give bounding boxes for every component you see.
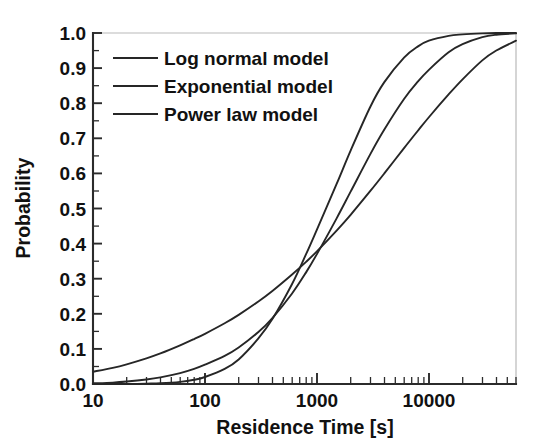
legend-label-power-law-model: Power law model bbox=[164, 104, 318, 125]
legend-label-exponential-model: Exponential model bbox=[164, 76, 333, 97]
x-tick-label-100: 100 bbox=[189, 390, 221, 411]
x-major-ticks bbox=[93, 373, 429, 384]
chart-canvas: 1.0 0.9 0.8 0.7 0.6 0.5 0.4 0.3 0.2 0.1 … bbox=[0, 0, 541, 447]
x-tick-label-1000: 1000 bbox=[296, 390, 338, 411]
x-tick-label-10: 10 bbox=[82, 390, 103, 411]
x-tick-label-10000: 10000 bbox=[403, 390, 456, 411]
y-tick-labels: 1.0 0.9 0.8 0.7 0.6 0.5 0.4 0.3 0.2 0.1 … bbox=[60, 23, 87, 395]
x-axis-title: Residence Time [s] bbox=[216, 416, 393, 438]
y-tick-label-0-3: 0.3 bbox=[60, 269, 86, 290]
x-tick-labels: 10 100 1000 10000 bbox=[82, 390, 455, 411]
y-tick-label-0-4: 0.4 bbox=[60, 234, 87, 255]
y-tick-label-0-5: 0.5 bbox=[60, 199, 87, 220]
chart-legend: Log normal model Exponential model Power… bbox=[113, 48, 333, 125]
y-tick-label-0-9: 0.9 bbox=[60, 58, 86, 79]
y-axis-title: Probability bbox=[12, 157, 34, 258]
y-tick-label-1-0: 1.0 bbox=[60, 23, 86, 44]
y-tick-label-0-7: 0.7 bbox=[60, 128, 86, 149]
y-tick-label-0-1: 0.1 bbox=[60, 339, 87, 360]
chart-figure: 1.0 0.9 0.8 0.7 0.6 0.5 0.4 0.3 0.2 0.1 … bbox=[0, 0, 541, 447]
legend-label-log-normal-model: Log normal model bbox=[164, 48, 329, 69]
y-tick-label-0-6: 0.6 bbox=[60, 163, 86, 184]
y-tick-label-0-2: 0.2 bbox=[60, 304, 86, 325]
y-tick-label-0-8: 0.8 bbox=[60, 93, 86, 114]
